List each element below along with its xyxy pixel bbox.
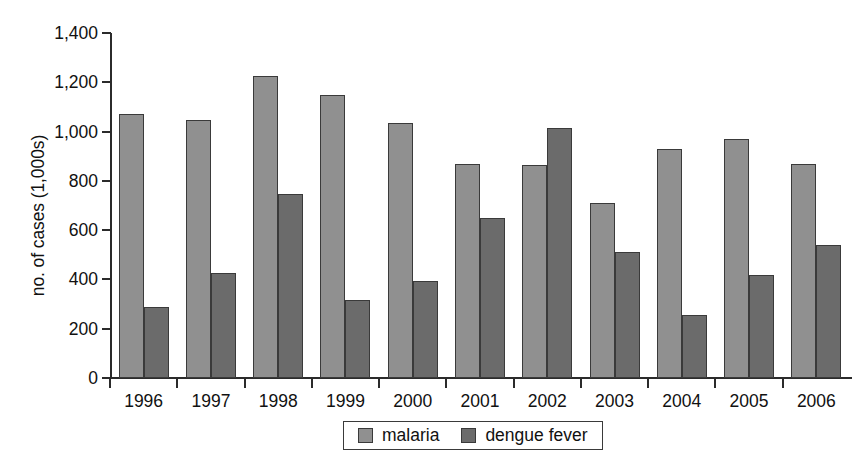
x-axis-tick-label: 2004 [662, 391, 701, 412]
bar-malaria-2000 [388, 123, 413, 378]
legend-swatch-icon [461, 428, 476, 443]
bar-malaria-2004 [657, 149, 682, 378]
bar-dengue-fever-1999 [345, 300, 370, 378]
bar-malaria-2005 [724, 139, 749, 378]
bar-dengue-fever-2002 [547, 128, 572, 378]
bar-malaria-2006 [791, 164, 816, 378]
x-axis-tick-label: 2005 [730, 391, 769, 412]
x-axis-tick [714, 379, 716, 388]
x-axis-tick-label: 2000 [393, 391, 432, 412]
bar-dengue-fever-2005 [749, 275, 774, 379]
x-axis-tick [311, 379, 313, 388]
bar-malaria-2003 [590, 203, 615, 378]
y-axis-tick-label: 1,000 [6, 121, 98, 142]
x-axis-tick [580, 379, 582, 388]
y-axis-tick-label: 1,200 [6, 72, 98, 93]
bar-dengue-fever-2000 [413, 281, 438, 378]
chart-legend: malariadengue fever [343, 421, 603, 450]
x-axis-tick [445, 379, 447, 388]
x-axis-tick-label: 1997 [191, 391, 230, 412]
y-axis-tick-label: 0 [6, 368, 98, 389]
bar-dengue-fever-2003 [615, 252, 640, 378]
bar-dengue-fever-2004 [682, 315, 707, 378]
bar-malaria-2001 [455, 164, 480, 378]
bar-dengue-fever-2001 [480, 218, 505, 378]
bar-dengue-fever-1998 [278, 194, 303, 378]
bar-dengue-fever-2006 [816, 245, 841, 378]
legend-item-dengue-fever: dengue fever [461, 425, 587, 446]
x-axis-tick [109, 379, 111, 388]
legend-label: malaria [382, 425, 439, 446]
x-axis-tick-label: 2002 [528, 391, 567, 412]
x-axis-tick-label: 1998 [259, 391, 298, 412]
x-axis-tick [513, 379, 515, 388]
x-axis-tick [378, 379, 380, 388]
legend-swatch-icon [358, 428, 373, 443]
x-axis-tick [647, 379, 649, 388]
x-axis-tick-label: 1996 [124, 391, 163, 412]
y-axis-tick-label: 400 [6, 269, 98, 290]
bar-malaria-1999 [320, 95, 345, 378]
bar-malaria-1998 [253, 76, 278, 378]
bar-malaria-1997 [186, 120, 211, 378]
x-axis-tick-label: 2006 [797, 391, 836, 412]
plot-area [110, 33, 850, 378]
x-axis-tick [176, 379, 178, 388]
bar-malaria-2002 [522, 165, 547, 378]
bar-malaria-1996 [119, 114, 144, 378]
bar-dengue-fever-1997 [211, 273, 236, 378]
y-axis-tick-label: 600 [6, 220, 98, 241]
x-axis-tick-label: 2001 [461, 391, 500, 412]
bar-dengue-fever-1996 [144, 307, 169, 378]
x-axis-tick [244, 379, 246, 388]
x-axis-tick [782, 379, 784, 388]
y-axis-tick-label: 800 [6, 170, 98, 191]
bar-chart: no. of cases (1,000s) 02004006008001,000… [0, 0, 858, 457]
y-axis-tick-label: 200 [6, 318, 98, 339]
x-axis-tick-label: 2003 [595, 391, 634, 412]
legend-item-malaria: malaria [358, 425, 439, 446]
y-axis-tick-label: 1,400 [6, 23, 98, 44]
x-axis-tick-label: 1999 [326, 391, 365, 412]
legend-label: dengue fever [485, 425, 587, 446]
